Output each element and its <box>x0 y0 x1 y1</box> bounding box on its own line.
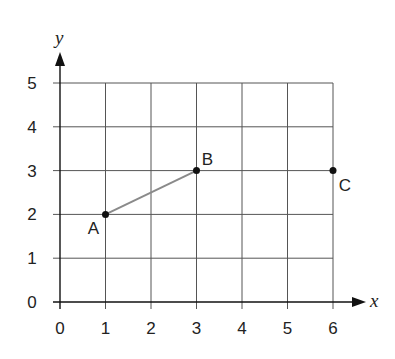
x-tick-label: 6 <box>328 319 337 338</box>
coordinate-grid-chart: 0123456012345 ABC x y <box>0 0 395 359</box>
y-tick-label: 1 <box>27 249 36 268</box>
x-tick-label: 4 <box>237 319 246 338</box>
x-tick-label: 5 <box>283 319 292 338</box>
points: ABC <box>88 150 351 239</box>
y-tick-label: 4 <box>27 118 36 137</box>
x-axis-arrow-icon <box>352 297 366 307</box>
x-tick-label: 0 <box>55 319 64 338</box>
y-tick-label: 3 <box>27 162 36 181</box>
point-A <box>102 211 109 218</box>
x-tick-label: 3 <box>192 319 201 338</box>
grid-lines <box>53 83 333 309</box>
point-label-C: C <box>339 176 351 195</box>
y-axis-label: y <box>53 27 64 48</box>
x-axis-label: x <box>369 290 379 311</box>
point-B <box>193 167 200 174</box>
point-C <box>330 167 337 174</box>
y-tick-label: 5 <box>27 74 36 93</box>
point-label-B: B <box>202 150 213 169</box>
x-tick-label: 2 <box>146 319 155 338</box>
tick-labels: 0123456012345 <box>27 74 337 338</box>
y-tick-label: 2 <box>27 205 36 224</box>
x-tick-label: 1 <box>101 319 110 338</box>
point-label-A: A <box>88 219 100 238</box>
axes <box>53 52 366 309</box>
y-tick-label: 0 <box>27 293 36 312</box>
y-axis-arrow-icon <box>55 52 65 66</box>
